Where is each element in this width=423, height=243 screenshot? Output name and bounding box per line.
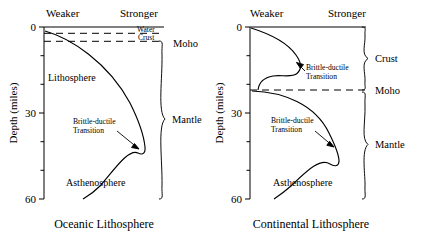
tick-label-60-oceanic: 60 <box>25 193 37 205</box>
y-axis-title-oceanic: Depth (miles) <box>7 82 20 143</box>
side-label-mantle-oceanic: Mantle <box>172 114 202 125</box>
header-stronger-continental: Stronger <box>328 7 366 19</box>
bracket-mantle-continental <box>362 92 368 199</box>
panel-oceanic: Weaker Stronger 0 30 60 Depth (miles) Wa… <box>0 0 212 243</box>
side-label-crust-continental: Crust <box>375 53 398 64</box>
annotation-bdt-crust-line1-continental: Brittle-ductile <box>306 63 349 72</box>
annotation-bdt-mantle-line1-continental: Brittle-ductile <box>271 116 314 125</box>
annotation-bdt-line1-oceanic: Brittle-ductile <box>73 117 116 126</box>
tick-label-30-continental: 30 <box>231 107 243 119</box>
side-label-mantle-continental: Mantle <box>375 139 405 150</box>
side-label-moho-oceanic: Moho <box>173 38 198 49</box>
tick-label-0-oceanic: 0 <box>31 21 37 33</box>
bracket-crust-continental <box>362 27 368 90</box>
caption-oceanic: Oceanic Lithosphere <box>54 217 154 231</box>
y-axis-title-continental: Depth (miles) <box>213 82 226 143</box>
annotation-arrow-bdt-oceanic <box>117 131 139 149</box>
lithosphere-strength-figure: Weaker Stronger 0 30 60 Depth (miles) Wa… <box>0 0 423 243</box>
region-label-lithosphere-oceanic: Lithosphere <box>48 72 96 83</box>
header-weaker-oceanic: Weaker <box>46 7 80 19</box>
annotation-arrow-bdt-crust-continental <box>297 63 306 72</box>
header-weaker-continental: Weaker <box>250 7 284 19</box>
panel-continental: Weaker Stronger 0 30 60 Depth (miles) As… <box>211 0 423 243</box>
caption-continental: Continental Lithosphere <box>253 217 369 231</box>
tick-label-30-oceanic: 30 <box>25 107 37 119</box>
region-label-asthenosphere-continental: Asthenosphere <box>273 177 333 188</box>
region-label-asthenosphere-oceanic: Asthenosphere <box>66 177 126 188</box>
header-stronger-oceanic: Stronger <box>120 7 158 19</box>
annotation-bdt-crust-line2-continental: Transition <box>306 72 337 81</box>
tick-label-0-continental: 0 <box>237 21 243 33</box>
strength-curve-crust-continental <box>251 28 300 90</box>
annotation-bdt-mantle-line2-continental: Transition <box>271 125 302 134</box>
tick-label-60-continental: 60 <box>231 193 243 205</box>
annotation-arrow-bdt-mantle-continental <box>315 131 334 147</box>
bracket-mantle-oceanic <box>159 41 165 199</box>
layer-label-crust-oceanic: Crust <box>138 33 155 42</box>
side-label-moho-continental: Moho <box>375 85 400 96</box>
annotation-bdt-line2-oceanic: Transition <box>73 126 104 135</box>
strength-curve-oceanic <box>45 31 145 199</box>
